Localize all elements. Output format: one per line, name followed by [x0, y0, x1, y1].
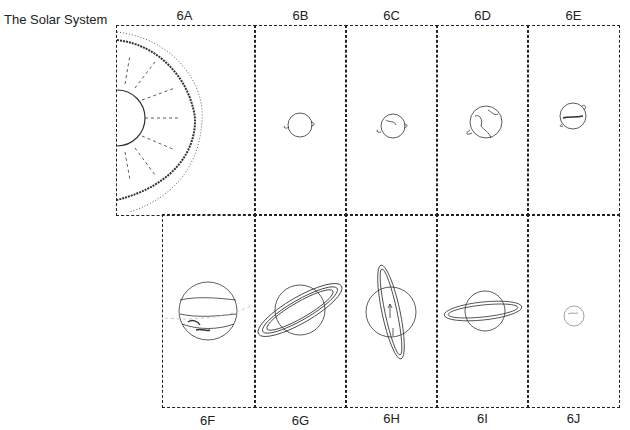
earth-icon	[467, 106, 502, 138]
jupiter-icon	[165, 282, 250, 340]
pluto-icon	[564, 306, 584, 326]
neptune-icon	[443, 291, 522, 331]
uranus-icon	[366, 263, 416, 361]
venus-icon	[377, 114, 407, 138]
mars-icon	[560, 103, 586, 129]
planet-drawings	[0, 0, 630, 430]
mercury-icon	[284, 113, 314, 137]
saturn-icon	[252, 275, 348, 346]
sun-icon	[117, 32, 202, 212]
